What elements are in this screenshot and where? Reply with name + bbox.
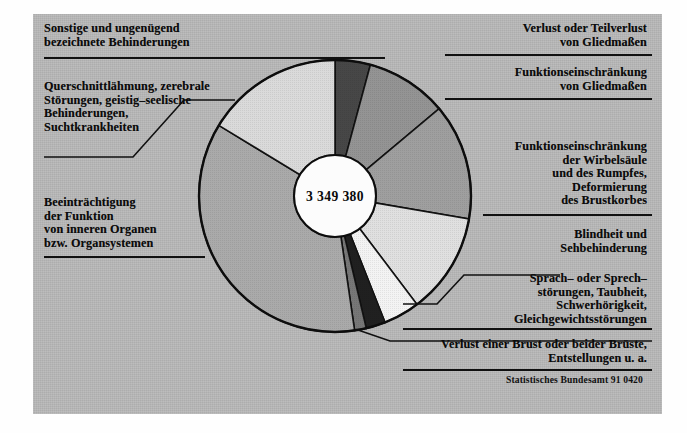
rule-beeintraechtigung: [44, 256, 205, 258]
rule-verlust-brust: [403, 369, 652, 371]
label-funktionseinschraenkung-wirbelsaeule: Funktionseinschränkung der Wirbelsäule u…: [437, 140, 647, 208]
label-beeintraechtigung-innere-organe: Beeinträchtigung der Funktion von innere…: [44, 196, 264, 250]
rule-sonstige-behinderungen: [44, 57, 385, 59]
pie-center-total: 3 349 380: [285, 189, 385, 205]
rule-funktionseinschraenkung-wirbelsaeule: [483, 214, 652, 216]
rule-verlust-gliedmassen: [445, 54, 652, 56]
label-verlust-brust: Verlust einer Brust oder beider Brüste, …: [367, 338, 647, 365]
label-sonstige-behinderungen: Sonstige und ungenügend bezeichnete Behi…: [44, 22, 274, 49]
label-blindheit-sehbehinderung: Blindheit und Sehbehinderung: [437, 228, 647, 255]
label-funktionseinschraenkung-gliedmassen: Funktionseinschränkung von Gliedmaßen: [422, 66, 647, 93]
label-sprachstoerungen: Sprach– oder Sprech– störungen, Taubheit…: [422, 272, 647, 326]
label-verlust-gliedmassen: Verlust oder Teilverlust von Gliedmaßen: [422, 22, 647, 49]
rule-funktionseinschraenkung-gliedmassen: [445, 98, 652, 100]
rule-sprachstoerungen: [403, 328, 652, 330]
label-querschnittlaehmung: Querschnittlähmung, zerebrale Störungen,…: [44, 80, 294, 134]
source-credit: Statistisches Bundesamt 91 0420: [506, 374, 643, 385]
figure-root: Sonstige und ungenügend bezeichnete Behi…: [0, 0, 687, 433]
